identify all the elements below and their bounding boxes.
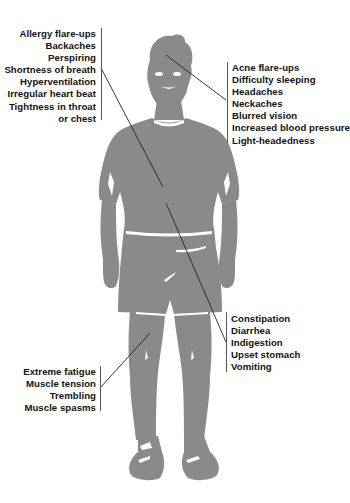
symptom-label: or chest — [4, 113, 96, 125]
symptom-label: Difficulty sleeping — [232, 74, 350, 86]
symptom-label: Upset stomach — [231, 349, 300, 361]
left-leg — [129, 312, 166, 440]
shorts — [118, 228, 222, 314]
symptom-label: Hyperventilation — [4, 76, 96, 88]
symptom-label: Muscle spasms — [23, 402, 96, 414]
symptom-label: Irregular heart beat — [4, 88, 96, 100]
symptom-label: Light-headedness — [232, 135, 350, 147]
symptom-label: Constipation — [231, 313, 300, 325]
symptom-label: Acne flare-ups — [232, 62, 350, 74]
shirt — [99, 118, 239, 230]
head — [147, 34, 192, 110]
symptom-label: Shortness of breath — [4, 64, 96, 76]
symptom-group-head: Acne flare-ups Difficulty sleeping Heada… — [232, 62, 350, 147]
left-arm — [101, 200, 120, 288]
symptom-label: Headaches — [232, 86, 350, 98]
bracket-bar-stomach — [226, 312, 227, 372]
symptom-label: Allergy flare-ups — [4, 28, 96, 40]
symptom-label: Muscle tension — [23, 378, 96, 390]
symptom-group-legs: Extreme fatigue Muscle tension Trembling… — [23, 366, 96, 414]
neck — [154, 100, 184, 120]
symptom-label: Indigestion — [231, 337, 300, 349]
bracket-bar-chest — [101, 28, 102, 120]
bracket-bar-legs — [100, 366, 101, 411]
symptom-label: Extreme fatigue — [23, 366, 96, 378]
symptom-label: Trembling — [23, 390, 96, 402]
right-shoe — [182, 436, 219, 480]
symptom-label: Blurred vision — [232, 110, 350, 122]
symptom-label: Perspiring — [4, 52, 96, 64]
symptom-label: Diarrhea — [231, 325, 300, 337]
symptom-label: Vomiting — [231, 361, 300, 373]
right-arm — [219, 200, 238, 288]
bracket-bar-head — [227, 62, 228, 143]
right-leg — [174, 312, 212, 440]
symptom-label: Tightness in throat — [4, 101, 96, 113]
symptom-label: Neckaches — [232, 98, 350, 110]
symptom-label: Increased blood pressure — [232, 122, 350, 134]
symptom-group-stomach: Constipation Diarrhea Indigestion Upset … — [231, 313, 300, 373]
symptom-label: Backaches — [4, 40, 96, 52]
symptom-group-chest: Allergy flare-ups Backaches Perspiring S… — [4, 28, 96, 125]
